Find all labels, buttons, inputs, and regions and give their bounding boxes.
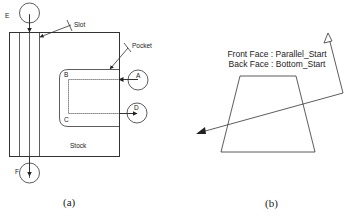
label-e: E xyxy=(5,12,10,19)
panel-b: Front Face : Parallel_Start Back Face : … xyxy=(196,33,343,210)
pocket-leader-tick xyxy=(124,43,131,52)
label-a: A xyxy=(136,72,141,79)
filled-arrowhead-icon xyxy=(196,127,206,134)
panel-a: E F Slot Pocket A D B C Stock (a) xyxy=(5,3,152,209)
label-c: C xyxy=(64,116,69,123)
label-f: F xyxy=(15,168,19,175)
pocket-inner xyxy=(69,80,120,114)
slot-leader xyxy=(40,25,71,37)
back-face-label: Back Face : Bottom_Start xyxy=(229,59,326,69)
hollow-arrowhead-icon xyxy=(324,33,332,43)
caption-a: (a) xyxy=(63,196,76,209)
label-b: B xyxy=(64,71,68,78)
label-pocket: Pocket xyxy=(132,42,152,49)
label-d: D xyxy=(134,104,139,111)
slot-leader-tick xyxy=(67,20,72,31)
label-slot: Slot xyxy=(74,21,85,28)
caption-b: (b) xyxy=(265,197,278,210)
figure-canvas: E F Slot Pocket A D B C Stock (a) xyxy=(0,0,349,217)
front-face-label: Front Face : Parallel_Start xyxy=(227,49,327,59)
label-stock: Stock xyxy=(70,142,87,149)
stock-outline xyxy=(10,33,120,157)
